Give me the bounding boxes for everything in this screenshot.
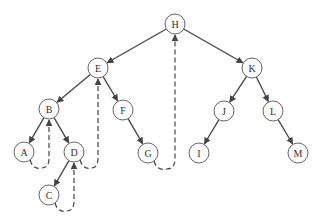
thread-C-D xyxy=(55,163,74,211)
node-label: L xyxy=(270,106,276,117)
node-A: A xyxy=(14,142,34,162)
tree-edges xyxy=(29,29,292,186)
edge-B-A xyxy=(29,118,44,143)
edge-F-G xyxy=(128,119,143,144)
node-B: B xyxy=(39,99,59,119)
node-D: D xyxy=(64,142,84,162)
edge-H-K xyxy=(184,29,243,63)
node-label: F xyxy=(120,105,126,116)
node-label: D xyxy=(70,147,77,158)
node-I: I xyxy=(189,143,209,163)
node-F: F xyxy=(113,100,133,120)
tree-nodes: HEKBFJLADGIMC xyxy=(14,14,308,205)
node-E: E xyxy=(88,58,108,78)
node-label: H xyxy=(171,19,178,30)
edge-J-I xyxy=(204,120,219,144)
edge-H-E xyxy=(107,29,166,63)
node-L: L xyxy=(263,101,283,121)
node-J: J xyxy=(214,101,234,121)
node-K: K xyxy=(242,58,262,78)
node-H: H xyxy=(165,14,185,34)
edge-K-L xyxy=(256,77,268,102)
node-label: I xyxy=(197,148,200,159)
edge-B-D xyxy=(54,118,69,143)
node-label: A xyxy=(20,147,28,158)
edge-D-C xyxy=(54,161,69,186)
node-label: C xyxy=(46,190,53,201)
threaded-tree-diagram: HEKBFJLADGIMC xyxy=(0,0,322,220)
node-label: G xyxy=(144,148,151,159)
node-M: M xyxy=(288,143,308,163)
node-label: K xyxy=(248,63,256,74)
edge-E-B xyxy=(57,74,90,102)
node-label: M xyxy=(294,148,303,159)
edge-L-M xyxy=(278,120,293,144)
node-C: C xyxy=(39,185,59,205)
node-label: B xyxy=(46,104,53,115)
node-label: E xyxy=(95,63,101,74)
edge-K-J xyxy=(230,76,247,102)
node-label: J xyxy=(222,106,226,117)
node-G: G xyxy=(138,143,158,163)
edge-E-F xyxy=(103,77,118,101)
thread-A-B xyxy=(30,120,49,168)
